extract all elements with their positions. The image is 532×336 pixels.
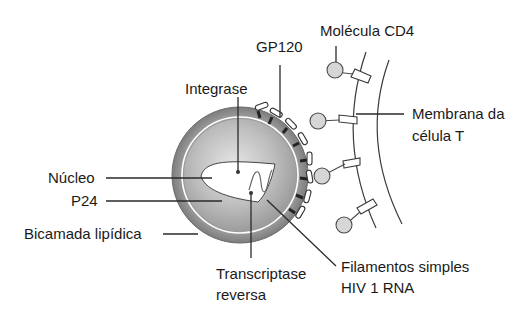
label-rna-line2: HIV 1 RNA [341, 279, 414, 296]
label-membrane-line1: Membrana da [412, 105, 505, 122]
label-rna-line1: Filamentos simples [341, 258, 469, 275]
label-membrane-line2: célula T [412, 127, 464, 144]
label-bilayer: Bicamada lipídica [24, 225, 142, 242]
cd4-molecules [310, 62, 360, 233]
label-integrase: Integrase [185, 80, 248, 97]
label-p24: P24 [71, 192, 98, 209]
hiv-virion [172, 102, 313, 243]
label-rt-line2: reversa [216, 286, 267, 303]
label-cd4-molecule: Molécula CD4 [320, 22, 414, 39]
label-nucleo: Núcleo [48, 169, 95, 186]
t-cell-membrane [339, 52, 402, 228]
label-rt-line1: Transcriptase [216, 265, 306, 282]
hiv-diagram: Integrase GP120 Molécula CD4 Membrana da… [0, 0, 532, 336]
label-gp120: GP120 [256, 38, 303, 55]
